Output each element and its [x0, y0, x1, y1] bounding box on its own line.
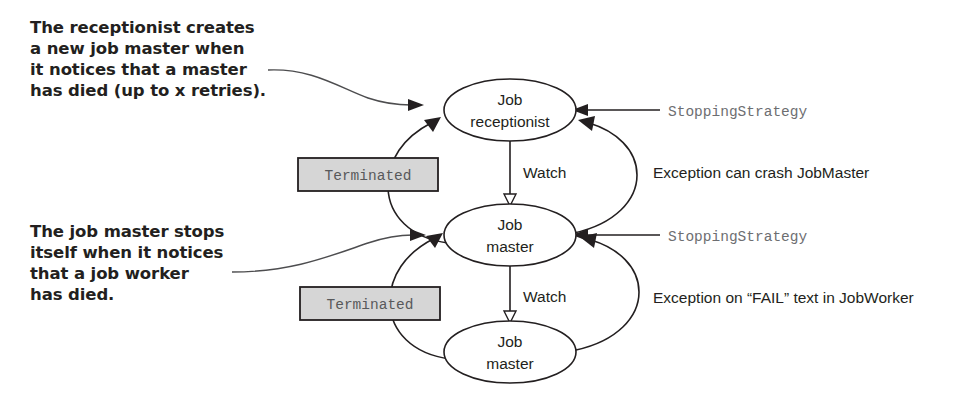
- label-stopping-strategy-lower: StoppingStrategy: [668, 229, 808, 245]
- box-terminated-upper[interactable]: Terminated: [298, 158, 438, 191]
- box-terminated-upper-label: Terminated: [324, 168, 411, 184]
- node-job-master-middle-line2: master: [486, 238, 533, 255]
- edge-label-watch-lower: Watch: [523, 288, 566, 305]
- annotation-receptionist-line-2: it notices that a master: [30, 60, 248, 79]
- arrowhead-callout-receptionist: [408, 99, 424, 111]
- annotation-job-master-line-2: that a job worker: [30, 264, 190, 283]
- arrowhead-callout-job-master: [410, 229, 426, 241]
- supervision-watch-diagram: Job receptionist Job master Job master T…: [0, 0, 973, 413]
- edge-exception-upper-curve: [574, 123, 637, 233]
- annotation-job-master-line-0: The job master stops: [30, 222, 225, 241]
- label-stopping-strategy-upper: StoppingStrategy: [668, 104, 808, 120]
- annotation-receptionist-note: The receptionist creates a new job maste…: [30, 18, 266, 100]
- annotation-receptionist-line-3: has died (up to x retries).: [30, 81, 266, 100]
- diagram-page: Job receptionist Job master Job master T…: [0, 0, 973, 413]
- annotation-receptionist-line-1: a new job master when: [30, 39, 244, 58]
- callout-curve-job-master: [232, 235, 413, 272]
- node-job-master-bottom-line1: Job: [498, 333, 523, 350]
- label-exception-crash-jobmaster: Exception can crash JobMaster: [653, 164, 869, 181]
- node-job-master-bottom-shape: [444, 321, 576, 383]
- node-job-master-bottom-line2: master: [486, 355, 533, 372]
- arrowhead-terminated-upper: [424, 117, 441, 132]
- box-terminated-lower-label: Terminated: [326, 297, 413, 313]
- node-job-receptionist-line1: Job: [498, 91, 523, 108]
- edge-exception-lower-curve: [576, 240, 639, 350]
- node-job-receptionist-shape: [444, 79, 576, 141]
- edge-label-watch-upper: Watch: [523, 164, 566, 181]
- node-job-master-middle-shape: [444, 204, 576, 266]
- node-job-master-middle-line1: Job: [498, 216, 523, 233]
- annotation-job-master-line-3: has died.: [30, 285, 114, 304]
- box-terminated-lower[interactable]: Terminated: [300, 287, 440, 320]
- node-job-receptionist-line2: receptionist: [470, 113, 550, 130]
- annotation-receptionist-line-0: The receptionist creates: [30, 18, 255, 37]
- label-exception-fail-jobworker: Exception on “FAIL” text in JobWorker: [653, 289, 914, 306]
- annotation-job-master-note: The job master stops itself when it noti…: [30, 222, 225, 304]
- node-job-receptionist[interactable]: Job receptionist: [444, 79, 576, 141]
- node-job-master-bottom[interactable]: Job master: [444, 321, 576, 383]
- arrowhead-terminated-lower: [426, 233, 443, 248]
- annotation-job-master-line-1: itself when it notices: [30, 243, 224, 262]
- callout-curve-receptionist: [268, 70, 411, 105]
- node-job-master-middle[interactable]: Job master: [444, 204, 576, 266]
- arrowhead-exception-upper: [578, 116, 595, 131]
